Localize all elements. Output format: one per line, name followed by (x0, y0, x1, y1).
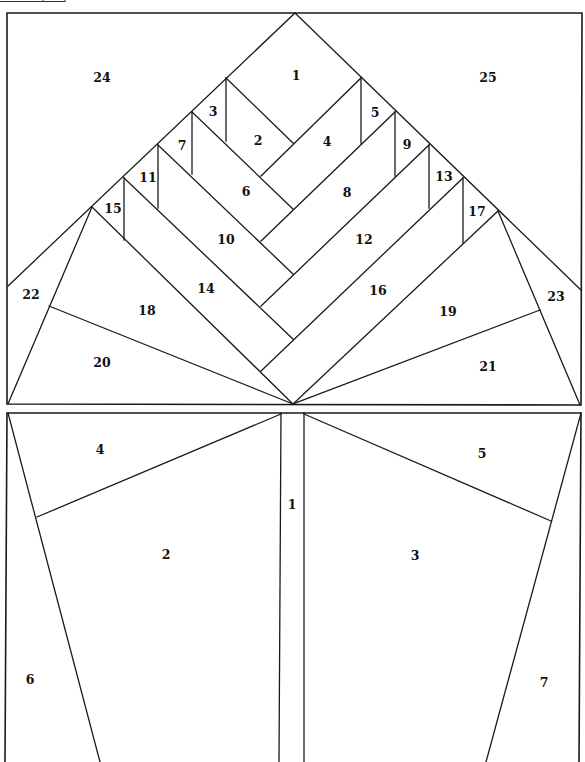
piece-label: 4 (96, 442, 105, 457)
piece-label: 11 (139, 170, 156, 185)
piece-label: 17 (468, 204, 485, 219)
piece-label: 19 (439, 304, 456, 319)
left-lower-seam (49, 306, 293, 404)
piece-label: 23 (547, 289, 564, 304)
quilt-pattern-diagram: 1 2 3 4 5 6 7 8 9 10 11 12 13 14 15 16 1… (0, 0, 585, 762)
piece-label: 2 (162, 547, 171, 562)
piece-label: 18 (138, 303, 156, 318)
scan-artifact (0, 0, 65, 2)
right-strip-line (261, 145, 429, 306)
right-upper-divider (304, 414, 551, 521)
left-strip-line (92, 207, 293, 404)
top-block: 1 2 3 4 5 6 7 8 9 10 11 12 13 14 15 16 1… (7, 13, 582, 405)
piece-label: 6 (242, 184, 251, 199)
bottom-block: 1 2 3 4 5 6 7 (5, 413, 581, 762)
left-roof-diagonal (8, 13, 295, 286)
right-roof-diagonal (295, 13, 581, 290)
piece-label: 3 (411, 548, 420, 563)
piece-label: 21 (479, 359, 496, 374)
piece-label: 4 (323, 134, 332, 149)
piece-label: 12 (355, 232, 372, 247)
piece-label: 6 (26, 672, 35, 687)
piece-label: 22 (22, 287, 39, 302)
left-upper-divider (37, 414, 281, 517)
piece-label: 15 (104, 201, 121, 216)
stem-left-seam (279, 413, 281, 762)
piece-label: 5 (371, 105, 380, 120)
piece-label: 2 (254, 133, 263, 148)
piece-label: 24 (93, 70, 111, 85)
piece-label: 14 (197, 281, 215, 296)
piece-label: 1 (292, 68, 301, 83)
piece-label: 9 (403, 137, 412, 152)
piece-label: 13 (435, 169, 452, 184)
piece-label: 7 (540, 675, 549, 690)
right-side-seam (498, 211, 580, 405)
piece-label: 1 (288, 497, 297, 512)
piece-label: 3 (209, 104, 218, 119)
right-strip-line (293, 211, 498, 404)
right-side-diagonal (486, 413, 581, 762)
piece-label: 5 (478, 446, 487, 461)
piece-label: 10 (217, 232, 235, 247)
piece-label: 16 (369, 283, 387, 298)
right-lower-seam (293, 310, 540, 404)
piece-label: 20 (93, 355, 111, 370)
bottom-block-border (5, 413, 581, 762)
piece-label: 7 (178, 138, 187, 153)
piece-label: 8 (343, 185, 352, 200)
left-side-seam (8, 207, 92, 404)
piece-label: 25 (479, 70, 496, 85)
left-side-diagonal (8, 413, 100, 762)
